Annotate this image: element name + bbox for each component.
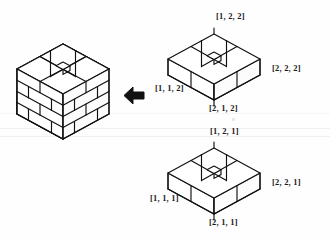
label-2-2-1: [2, 2, 1] bbox=[272, 178, 301, 187]
layer-one-block bbox=[168, 148, 260, 214]
left-arrow-icon bbox=[124, 87, 144, 104]
label-1-2-2: [1, 2, 2] bbox=[216, 12, 245, 21]
label-1-2-1: [1, 2, 1] bbox=[210, 127, 239, 136]
label-2-1-1: [2, 1, 1] bbox=[209, 218, 238, 227]
label-2-1-2: [2, 1, 2] bbox=[209, 104, 238, 113]
label-1-1-1: [1, 1, 1] bbox=[150, 194, 179, 203]
label-2-2-2: [2, 2, 2] bbox=[272, 64, 301, 73]
block-assembly-figure: .f { fill:#ffffff; stroke:#111111; strok… bbox=[0, 0, 330, 242]
assembled-brick-tower bbox=[17, 44, 109, 139]
label-1-1-2: [1, 1, 2] bbox=[155, 84, 184, 93]
